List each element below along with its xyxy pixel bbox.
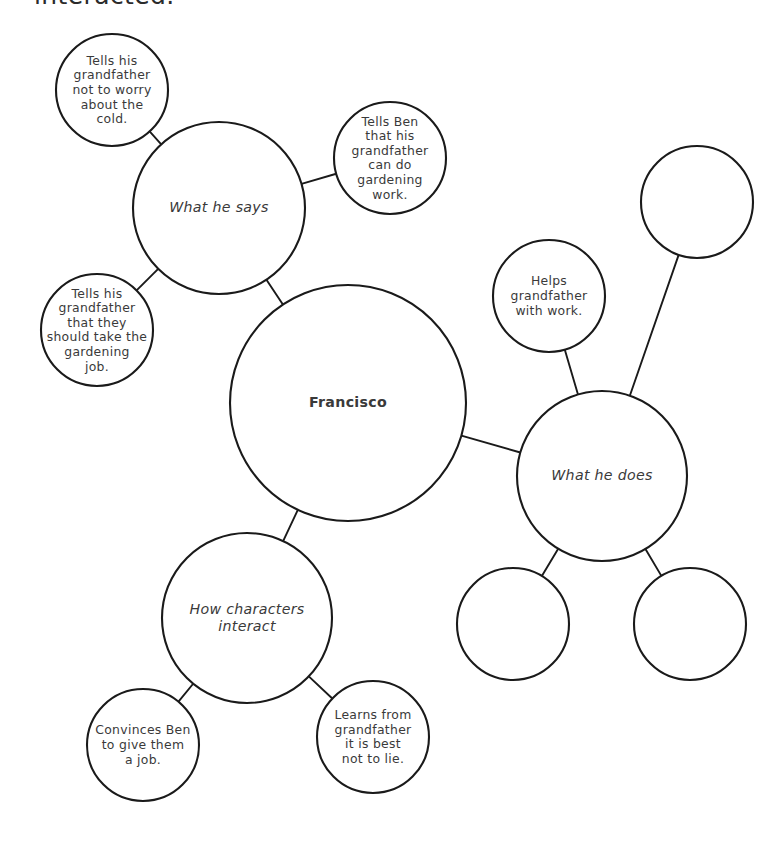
bubble-how-characters-interact[interactable]: How charactersinteract [162, 533, 332, 703]
connector-what-he-does-to-blank-top-right [630, 255, 679, 396]
bubble-label-francisco: Francisco [309, 394, 387, 410]
bubble-outline-blank-bottom-left [457, 568, 569, 680]
bubble-learns-not-to-lie[interactable]: Learns fromgrandfatherit is bestnot to l… [317, 681, 429, 793]
bubble-layer: FranciscoWhat he saysTells hisgrandfathe… [41, 34, 753, 801]
connector-what-he-does-to-blank-bottom-left [542, 549, 558, 576]
bubble-not-to-worry-cold[interactable]: Tells hisgrandfathernot to worryabout th… [56, 34, 168, 146]
bubble-map-canvas: FranciscoWhat he saysTells hisgrandfathe… [0, 0, 774, 846]
connector-how-characters-interact-to-convinces-ben [178, 684, 193, 702]
connector-what-he-says-to-not-to-worry-cold [150, 131, 162, 144]
connector-how-characters-interact-to-learns-not-to-lie [309, 676, 332, 698]
bubble-francisco[interactable]: Francisco [230, 285, 466, 521]
connector-what-he-does-to-blank-bottom-right [645, 549, 661, 576]
bubble-convinces-ben[interactable]: Convinces Bento give thema job. [87, 689, 199, 801]
bubble-tells-ben-gardening[interactable]: Tells Benthat hisgrandfathercan dogarden… [334, 102, 446, 214]
bubble-what-he-says[interactable]: What he says [133, 122, 305, 294]
bubble-blank-top-right[interactable] [641, 146, 753, 258]
connector-francisco-to-how-characters-interact [283, 510, 298, 541]
connector-francisco-to-what-he-says [266, 280, 282, 305]
bubble-blank-bottom-left[interactable] [457, 568, 569, 680]
bubble-what-he-does[interactable]: What he does [517, 391, 687, 561]
bubble-map-page: interacted. FranciscoWhat he saysTells h… [0, 0, 774, 846]
bubble-should-take-job[interactable]: Tells hisgrandfatherthat theyshould take… [41, 274, 153, 386]
bubble-label-what-he-does: What he does [551, 467, 653, 483]
connector-what-he-says-to-tells-ben-gardening [302, 174, 337, 184]
connector-francisco-to-what-he-does [461, 436, 520, 453]
bubble-label-what-he-says: What he says [169, 199, 269, 215]
bubble-outline-blank-bottom-right [634, 568, 746, 680]
connector-what-he-does-to-helps-grandfather [565, 350, 578, 395]
bubble-helps-grandfather[interactable]: Helpsgrandfatherwith work. [493, 240, 605, 352]
connector-what-he-says-to-should-take-job [137, 269, 159, 291]
bubble-outline-blank-top-right [641, 146, 753, 258]
bubble-label-learns-not-to-lie: Learns fromgrandfatherit is bestnot to l… [334, 707, 412, 766]
bubble-blank-bottom-right[interactable] [634, 568, 746, 680]
